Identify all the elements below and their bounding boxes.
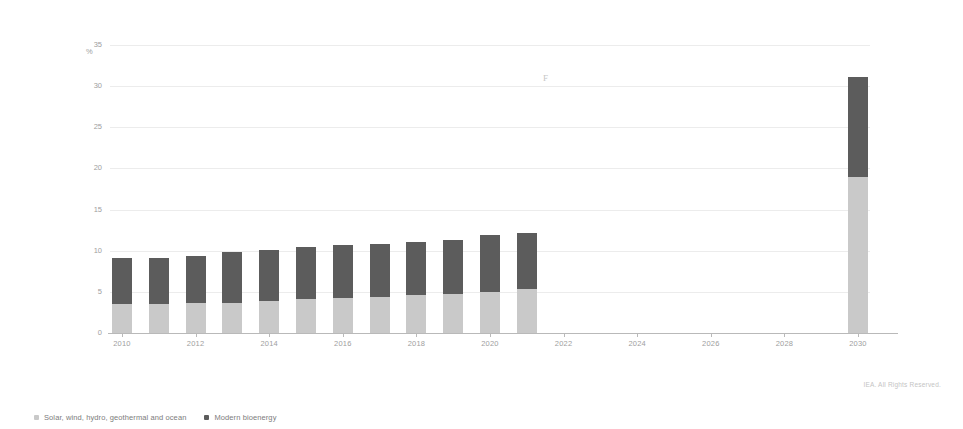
bar-segment-renewables [222,252,242,302]
bar-segment-bioenergy [406,295,426,333]
bar-segment-bioenergy [848,177,868,333]
tick-mark [858,333,859,337]
bar-segment-renewables [480,235,500,292]
chart-legend: Solar, wind, hydro, geothermal and ocean… [34,413,276,422]
tick-mark [637,333,638,337]
tick-mark [490,333,491,337]
x-axis-tick-label: 2020 [481,339,499,348]
gridline [110,168,870,169]
x-axis-tick-label: 2022 [555,339,573,348]
x-axis-tick-label: 2018 [408,339,426,348]
bar-segment-bioenergy [333,298,353,333]
bar-segment-renewables [149,258,169,304]
tick-mark [122,333,123,337]
gridline [110,45,870,46]
bar-segment-bioenergy [149,304,169,333]
y-axis-labels: 05101520253035 [70,0,102,429]
legend-label: Modern bioenergy [214,413,276,422]
x-axis-tick-label: 2016 [334,339,352,348]
tick-mark [784,333,785,337]
bar-segment-bioenergy [222,303,242,333]
bar-segment-bioenergy [480,292,500,333]
bar-segment-bioenergy [517,289,537,333]
legend-swatch-icon [34,415,39,420]
bar-segment-bioenergy [186,303,206,333]
y-axis-tick-label: 5 [98,288,102,296]
tick-mark [416,333,417,337]
gridline [110,127,870,128]
bar-segment-renewables [517,233,537,290]
bar-segment-renewables [333,245,353,298]
tick-mark [343,333,344,337]
y-axis-tick-label: 30 [94,82,102,90]
y-axis-tick-label: 0 [98,329,102,337]
tick-mark [711,333,712,337]
bar-segment-renewables [848,77,868,177]
x-axis-tick-label: 2012 [187,339,205,348]
x-axis-tick-label: 2014 [260,339,278,348]
tick-mark [269,333,270,337]
legend-label: Solar, wind, hydro, geothermal and ocean [44,413,186,422]
y-axis-tick-label: 25 [94,123,102,131]
bar-segment-renewables [296,247,316,300]
bar-segment-renewables [370,244,390,297]
x-axis-tick-label: 2030 [849,339,867,348]
plot-area [110,45,870,333]
bar-segment-bioenergy [443,294,463,333]
x-axis-tick-label: 2028 [776,339,794,348]
bar-segment-bioenergy [370,297,390,333]
credit-text: IEA. All Rights Reserved. [863,381,941,388]
x-axis-tick-label: 2024 [628,339,646,348]
bar-segment-bioenergy [259,301,279,333]
legend-swatch-icon [204,415,209,420]
bar-segment-renewables [259,250,279,301]
legend-item-0[interactable]: Solar, wind, hydro, geothermal and ocean [34,413,186,422]
scan-artifact-mark: F [543,73,548,83]
gridline [110,210,870,211]
x-axis-ticks: 2010201220142016201820202022202420262028… [110,333,900,357]
x-axis-tick-label: 2010 [113,339,131,348]
chart-figure: % 05101520253035 20102012201420162018202… [0,0,963,429]
bar-segment-bioenergy [112,304,132,333]
y-axis-tick-label: 10 [94,247,102,255]
gridline [110,86,870,87]
x-axis-tick-label: 2026 [702,339,720,348]
y-axis-tick-label: 35 [94,41,102,49]
y-axis-tick-label: 15 [94,206,102,214]
bar-segment-renewables [186,256,206,304]
tick-mark [196,333,197,337]
bar-segment-bioenergy [296,299,316,333]
bar-segment-renewables [112,258,132,304]
tick-mark [564,333,565,337]
bar-segment-renewables [443,240,463,294]
y-axis-tick-label: 20 [94,164,102,172]
bar-segment-renewables [406,242,426,295]
legend-item-1[interactable]: Modern bioenergy [204,413,276,422]
